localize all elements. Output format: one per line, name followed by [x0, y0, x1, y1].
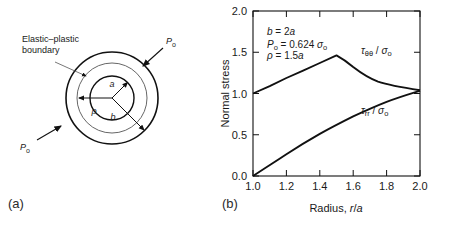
- y-tick-label-1: 0.5: [232, 129, 247, 141]
- elastic-plastic-boundary-label-line1: Elastic–plastic: [22, 34, 80, 44]
- x-tick-label-5: 2.0: [412, 180, 427, 192]
- y-tick-label-4: 2.0: [232, 5, 247, 17]
- curve-tau-theta-theta: [253, 55, 420, 93]
- annotation-rho-value: ρ = 1.5a: [266, 50, 304, 61]
- curve-label-tau-theta-theta: τθθ / σo: [361, 45, 392, 58]
- radius-a-label: a: [109, 79, 114, 89]
- panel-a-label: (a): [8, 196, 24, 211]
- panel-a-diagram: a ρ b Elastic–plastic boundary Po Po: [0, 0, 225, 227]
- radius-b-arrow: [112, 98, 144, 130]
- x-tick-label-0: 1.0: [245, 180, 260, 192]
- panel-b-label: (b): [222, 196, 238, 211]
- figure-container: a ρ b Elastic–plastic boundary Po Po: [0, 0, 450, 227]
- pressure-label-top: Po: [166, 36, 176, 48]
- curve-label-tau-rr: τrr / σo: [361, 105, 388, 118]
- y-tick-label-3: 1.5: [232, 46, 247, 58]
- x-tick-label-4: 1.8: [379, 180, 394, 192]
- x-tick-label-2: 1.4: [312, 180, 327, 192]
- curve-tau-rr: [253, 91, 420, 176]
- radius-rho-label: ρ: [90, 106, 96, 116]
- pressure-arrow-left: [37, 126, 61, 140]
- y-tick-label-2: 1.0: [232, 88, 247, 100]
- x-tick-label-1: 1.2: [279, 180, 294, 192]
- pressure-label-left: Po: [20, 142, 30, 154]
- x-axis-title: Radius, r/a: [309, 202, 362, 214]
- annotation-b-equals-2a: b = 2a: [267, 26, 296, 37]
- y-axis-title: Normal stress: [219, 59, 231, 127]
- x-tick-label-3: 1.6: [346, 180, 361, 192]
- radius-b-label: b: [110, 112, 115, 122]
- panel-b-chart: 0.0 0.5 1.0 1.5 2.0 1.0 1.2 1.4 1.6 1.8 …: [215, 0, 450, 227]
- elastic-plastic-boundary-label-line2: boundary: [22, 45, 60, 55]
- pressure-arrow-top: [143, 48, 163, 66]
